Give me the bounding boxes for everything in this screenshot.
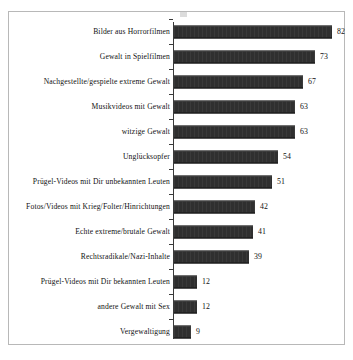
axis-tick [169, 319, 173, 320]
bar [174, 325, 191, 338]
category-label: Gewalt in Spielfilmen [100, 53, 170, 61]
axis-tick [169, 94, 173, 95]
bar-row: Fotos/Videos mit Krieg/Folter/Hinrichtun… [9, 194, 344, 219]
bar [174, 200, 255, 213]
bar-value-label: 39 [254, 253, 262, 261]
category-label: witzige Gewalt [122, 128, 170, 136]
axis-tick [169, 294, 173, 295]
bar-row: Prügel-Videos mit Dir unbekannten Leuten… [9, 169, 344, 194]
axis-tick [169, 144, 173, 145]
bar-row: Musikvideos mit Gewalt63 [9, 94, 344, 119]
bar-row: Vergewaltigung9 [9, 319, 344, 344]
category-label: Echte extreme/brutale Gewalt [75, 228, 170, 236]
bar [174, 275, 197, 288]
chart-frame: Bilder aus Horrorfilmen82Gewalt in Spiel… [8, 11, 345, 345]
category-label: Vergewaltigung [120, 328, 170, 336]
bar [174, 25, 332, 38]
axis-tick [169, 169, 173, 170]
axis-tick [169, 69, 173, 70]
axis-tick [169, 194, 173, 195]
axis-tick [169, 269, 173, 270]
bar [174, 100, 295, 113]
bar-value-label: 67 [308, 78, 316, 86]
bar-value-label: 63 [300, 103, 308, 111]
bar-row: Gewalt in Spielfilmen73 [9, 44, 344, 69]
category-label: Nachgestellte/gespielte extreme Gewalt [44, 78, 170, 86]
category-label: Bilder aus Horrorfilmen [93, 28, 170, 36]
category-label: andere Gewalt mit Sex [97, 303, 170, 311]
bar [174, 150, 278, 163]
plot-area: Bilder aus Horrorfilmen82Gewalt in Spiel… [9, 12, 344, 344]
axis-tick [169, 19, 173, 20]
category-label: Fotos/Videos mit Krieg/Folter/Hinrichtun… [26, 203, 170, 211]
bar-value-label: 12 [202, 303, 210, 311]
category-label: Prügel-Videos mit Dir bekannten Leuten [41, 278, 170, 286]
bar [174, 175, 272, 188]
bar-value-label: 63 [300, 128, 308, 136]
axis-tick [169, 44, 173, 45]
bar-row: Echte extreme/brutale Gewalt41 [9, 219, 344, 244]
bar [174, 75, 303, 88]
category-label: Unglücksopfer [123, 153, 170, 161]
bar-value-label: 41 [258, 228, 266, 236]
bar [174, 125, 295, 138]
bar-value-label: 51 [277, 178, 285, 186]
axis-tick [169, 219, 173, 220]
bar-value-label: 73 [320, 53, 328, 61]
bar-row: Nachgestellte/gespielte extreme Gewalt67 [9, 69, 344, 94]
bar-row: andere Gewalt mit Sex12 [9, 294, 344, 319]
axis-tick [169, 244, 173, 245]
bar-row: Prügel-Videos mit Dir bekannten Leuten12 [9, 269, 344, 294]
bar-row: witzige Gewalt63 [9, 119, 344, 144]
category-label: Rechtsradikale/Nazi-Inhalte [81, 253, 170, 261]
axis-tick [169, 119, 173, 120]
bar [174, 50, 315, 63]
bar [174, 300, 197, 313]
bar [174, 250, 249, 263]
bar-row: Bilder aus Horrorfilmen82 [9, 19, 344, 44]
category-label: Musikvideos mit Gewalt [92, 103, 170, 111]
bar-value-label: 82 [337, 28, 345, 36]
category-label: Prügel-Videos mit Dir unbekannten Leuten [33, 178, 170, 186]
bar-value-label: 42 [260, 203, 268, 211]
bar [174, 225, 253, 238]
bar-row: Unglücksopfer54 [9, 144, 344, 169]
bar-value-label: 12 [202, 278, 210, 286]
bar-row: Rechtsradikale/Nazi-Inhalte39 [9, 244, 344, 269]
bar-value-label: 54 [283, 153, 291, 161]
bar-value-label: 9 [196, 328, 200, 336]
